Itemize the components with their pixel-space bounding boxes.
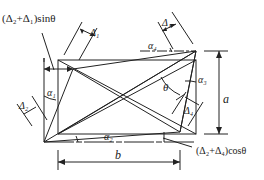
theta-label: θ — [163, 81, 169, 93]
delta1-top-left-label: Δ₁ — [89, 27, 99, 38]
delta1-top-right-label: Δ₁ — [161, 17, 171, 28]
bottom-right-formula-label: (Δ₂+Δ₄)cosθ — [196, 145, 246, 157]
dimension-a-label: a — [223, 92, 229, 106]
dimension-b-label: b — [115, 148, 121, 162]
alpha2-label: α₂ — [104, 131, 113, 142]
diagonal-2 — [73, 69, 180, 132]
top-left-formula-label: (Δ₂+Δ₁)sinθ — [2, 12, 55, 25]
delta2-left-label: Δ₂ — [18, 100, 29, 111]
alpha1-label: α₁ — [47, 87, 56, 98]
alpha3-label: α₃ — [198, 74, 207, 85]
delta4-right-label: Δ₄ — [183, 105, 194, 116]
rectangle-deviation-diagram: (Δ₂+Δ₁)sinθ (Δ₂+Δ₄)cosθ Δ₁ Δ₁ Δ₂ Δ₄ α₁ α… — [0, 0, 264, 180]
alpha4-label: α₄ — [148, 40, 157, 51]
